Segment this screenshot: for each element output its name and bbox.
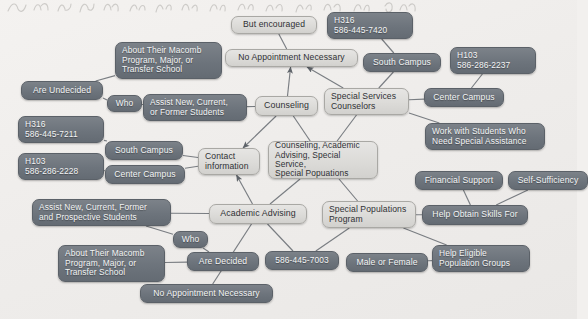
edge-academic_advising-to-contact_information <box>237 175 253 204</box>
map-node-south-campus-left[interactable]: South Campus <box>105 141 183 160</box>
edge-h103_2237-to-center_campus_top <box>471 74 482 88</box>
edge-counseling-to-no_appt_top <box>288 67 291 96</box>
edge-special_pop_program-to-help_eligible <box>403 228 446 245</box>
edge-special_services-to-center_main <box>337 115 356 141</box>
map-node-about-macomb-top[interactable]: About Their Macomb Program, Major, or Tr… <box>115 42 222 79</box>
map-node-but-encouraged[interactable]: But encouraged <box>231 16 317 34</box>
edge-h316_7420-to-south_campus_top <box>382 39 394 53</box>
map-node-h316-7211[interactable]: H316 586-445-7211 <box>18 116 104 143</box>
map-node-help-eligible[interactable]: Help Eligible Population Groups <box>432 245 530 272</box>
map-node-are-decided[interactable]: Are Decided <box>187 252 259 271</box>
map-node-center-campus-left[interactable]: Center Campus <box>105 165 185 184</box>
map-node-special-pop-program[interactable]: Special Populations Program <box>322 201 416 228</box>
map-node-work-with-students[interactable]: Work with Students Who Need Special Assi… <box>425 123 545 150</box>
edge-about_macomb_top-to-are_undecided <box>96 76 115 81</box>
edge-special_services-to-no_appt_top <box>307 67 343 88</box>
edge-center_campus_top-to-special_services <box>409 99 424 100</box>
map-node-special-services[interactable]: Special Services Counselors <box>324 88 409 115</box>
map-node-contact-information[interactable]: Contact information <box>198 148 260 175</box>
map-node-who-top[interactable]: Who <box>107 95 142 112</box>
map-node-male-or-female[interactable]: Male or Female <box>346 253 428 272</box>
edge-center_main-to-academic_advising <box>270 179 300 204</box>
edge-special_pop_program-to-phone_7003 <box>316 228 350 251</box>
edge-self_sufficiency-to-help_obtain_skills <box>496 190 528 205</box>
map-node-assist-new-current[interactable]: Assist New, Current, or Former Students <box>143 94 247 121</box>
map-node-center-main[interactable]: Counseling, Academic Advising, Special S… <box>268 141 378 179</box>
edge-special_services-to-work_with_students <box>409 113 439 123</box>
map-node-center-campus-top[interactable]: Center Campus <box>424 88 504 107</box>
edge-south_campus_left-to-contact_information <box>183 156 198 158</box>
map-node-h103-2228[interactable]: H103 586-286-2228 <box>18 153 104 180</box>
map-node-h316-7420[interactable]: H316 586-445-7420 <box>327 12 413 39</box>
edge-assist_prospective-to-who_bottom <box>146 226 173 234</box>
map-node-counseling[interactable]: Counseling <box>255 96 318 116</box>
scanned-handwriting-artifact <box>0 0 577 14</box>
map-node-no-appt-top[interactable]: No Appointment Necessary <box>225 49 358 67</box>
edge-center_main-to-special_pop_program <box>339 179 358 201</box>
map-node-south-campus-top[interactable]: South Campus <box>363 53 441 72</box>
map-node-about-macomb-bottom[interactable]: About Their Macomb Program, Major, or Tr… <box>58 245 165 282</box>
edge-financial_support-to-help_obtain_skills <box>463 190 470 205</box>
map-node-are-undecided[interactable]: Are Undecided <box>21 81 103 100</box>
map-node-assist-prospective[interactable]: Assist New, Current, Former and Prospect… <box>32 199 171 226</box>
edge-south_campus_top-to-special_services <box>379 72 394 88</box>
edge-but_encouraged-to-no_appt_top <box>279 34 287 49</box>
edge-academic_advising-to-phone_7003 <box>268 224 294 251</box>
edge-counseling-to-center_main <box>293 116 310 141</box>
map-node-financial-support[interactable]: Financial Support <box>415 171 503 190</box>
map-node-h103-2237[interactable]: H103 586-286-2237 <box>450 47 536 74</box>
edge-h316_7211-to-south_campus_left <box>104 140 107 141</box>
map-node-help-obtain-skills[interactable]: Help Obtain Skills For <box>422 205 528 225</box>
map-node-phone-7003[interactable]: 586-445-7003 <box>265 251 339 270</box>
map-node-no-appt-bottom[interactable]: No Appointment Necessary <box>140 284 273 303</box>
map-node-self-sufficiency[interactable]: Self-Sufficiency <box>508 171 588 190</box>
map-node-academic-advising[interactable]: Academic Advising <box>209 204 307 224</box>
edge-center_campus_left-to-contact_information <box>185 166 198 168</box>
map-node-who-bottom[interactable]: Who <box>173 231 208 248</box>
